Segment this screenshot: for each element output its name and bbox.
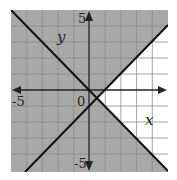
x-neg-tick-label: -5 <box>12 94 25 109</box>
origin-label: 0 <box>77 94 85 109</box>
y-axis-label: y <box>56 28 66 46</box>
x-axis-label: x <box>145 111 154 129</box>
inequality-graph: -5 0 5 -5 y x <box>0 0 177 180</box>
y-pos-tick-label: 5 <box>78 11 86 26</box>
y-neg-tick-label: -5 <box>74 156 87 171</box>
